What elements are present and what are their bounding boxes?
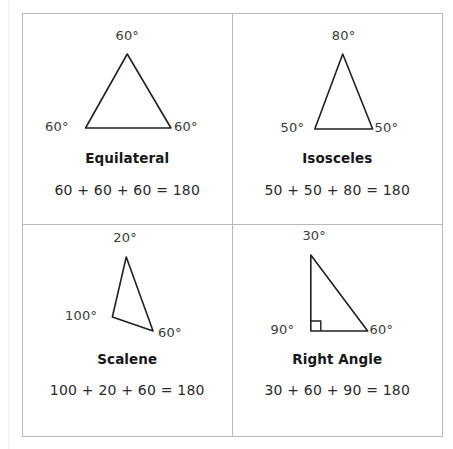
quadrant-grid: 60° 60° 60° Equilateral 60 + 60 + 60 = 1… (23, 14, 442, 436)
right-angle-triangle-shape (310, 255, 367, 331)
angle-sum-equation: 60 + 60 + 60 = 180 (23, 182, 232, 198)
equilateral-triangle-shape (86, 54, 171, 128)
angle-label-bottom-left: 100° (65, 308, 97, 323)
triangle-type-name: Scalene (23, 351, 232, 367)
right-angle-triangle-diagram (233, 225, 443, 355)
triangle-type-name: Right Angle (233, 351, 443, 367)
isosceles-triangle-shape (314, 54, 372, 129)
angle-sum-equation: 30 + 60 + 90 = 180 (233, 382, 443, 398)
triangle-types-figure: 60° 60° 60° Equilateral 60 + 60 + 60 = 1… (0, 0, 453, 449)
angle-label-apex: 80° (332, 28, 356, 43)
angle-label-apex: 60° (115, 28, 139, 43)
triangle-type-name: Isosceles (233, 150, 443, 166)
right-angle-square-marker (310, 321, 320, 331)
scan-artifact-line (8, 0, 9, 449)
scalene-triangle-shape (112, 257, 153, 331)
cell-right-angle: 30° 90° 60° Right Angle 30 + 60 + 90 = 1… (233, 225, 443, 436)
angle-label-bottom-left: 50° (281, 120, 305, 135)
angle-label-bottom-right: 60° (370, 322, 394, 337)
angle-label-bottom-left: 90° (271, 322, 295, 337)
cell-equilateral: 60° 60° 60° Equilateral 60 + 60 + 60 = 1… (23, 14, 233, 225)
angle-label-bottom-left: 60° (45, 119, 69, 134)
angle-sum-equation: 50 + 50 + 80 = 180 (233, 182, 443, 198)
angle-label-bottom-right: 60° (174, 119, 198, 134)
angle-label-bottom-right: 50° (375, 120, 399, 135)
cell-scalene: 20° 100° 60° Scalene 100 + 20 + 60 = 180 (23, 225, 233, 436)
cell-isosceles: 80° 50° 50° Isosceles 50 + 50 + 80 = 180 (233, 14, 443, 225)
angle-label-bottom-right: 60° (158, 325, 182, 340)
angle-sum-equation: 100 + 20 + 60 = 180 (23, 382, 232, 398)
figure-frame: 60° 60° 60° Equilateral 60 + 60 + 60 = 1… (22, 13, 443, 437)
triangle-type-name: Equilateral (23, 150, 232, 166)
angle-label-apex: 20° (113, 230, 137, 245)
angle-label-apex: 30° (302, 228, 326, 243)
